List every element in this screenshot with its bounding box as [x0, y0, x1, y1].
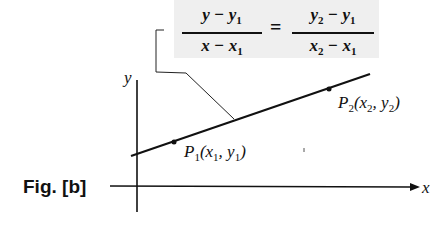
left-numerator: y − y1 [182, 4, 262, 31]
x-axis-label: x [422, 178, 430, 198]
y-axis-label: y [124, 68, 132, 88]
right-denominator: x2 − x1 [292, 35, 374, 62]
left-fraction: y − y1 x − x1 [182, 4, 262, 63]
x-axis [110, 186, 410, 187]
right-fraction: y2 − y1 x2 − x1 [292, 4, 374, 63]
point-p1-label: P1(x1, y1) [184, 142, 246, 163]
figure-label: Fig. [b] [23, 176, 86, 198]
right-numerator: y2 − y1 [292, 4, 374, 31]
point-p1 [172, 140, 177, 145]
equals-sign: = [270, 16, 281, 39]
point-p2-label: P2(x2, y2) [338, 93, 400, 114]
fraction-bar [292, 32, 374, 34]
line-p1-p2 [131, 74, 370, 156]
fraction-bar [182, 32, 262, 34]
x-axis-arrow-icon [410, 183, 420, 191]
left-denominator: x − x1 [182, 35, 262, 62]
point-p2 [327, 87, 332, 92]
